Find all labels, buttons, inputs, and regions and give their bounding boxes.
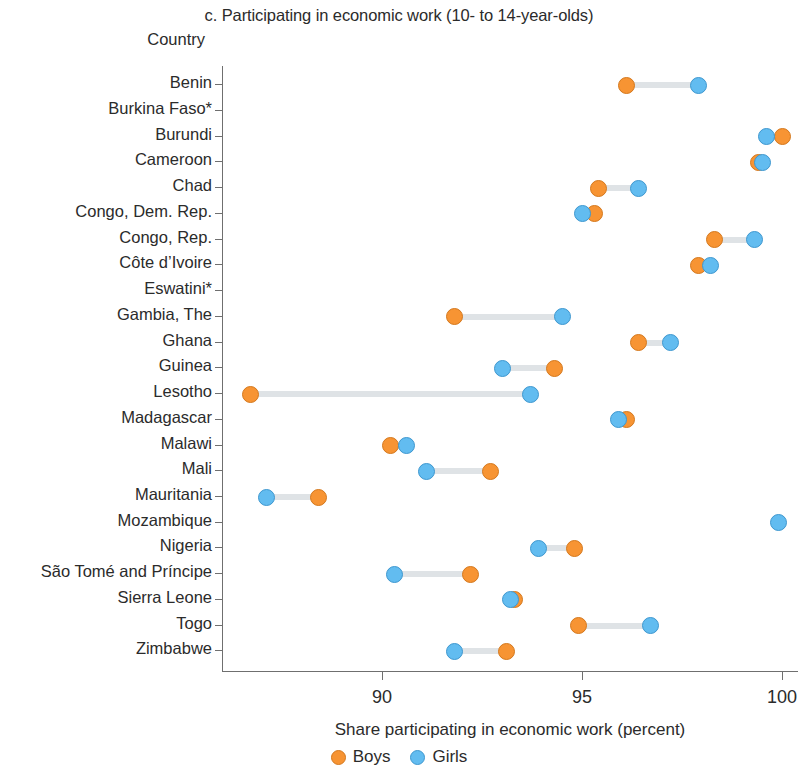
y-tick bbox=[215, 136, 222, 137]
y-tick bbox=[215, 496, 222, 497]
x-axis-line bbox=[222, 671, 798, 672]
connector-line bbox=[578, 623, 650, 629]
data-point-girls[interactable] bbox=[502, 591, 519, 608]
legend-swatch-boys-icon bbox=[331, 750, 346, 765]
connector-line bbox=[426, 468, 490, 474]
data-point-girls[interactable] bbox=[662, 334, 679, 351]
y-tick bbox=[215, 110, 222, 111]
data-point-girls[interactable] bbox=[690, 77, 707, 94]
y-tick bbox=[215, 290, 222, 291]
data-point-boys[interactable] bbox=[498, 643, 515, 660]
x-tick-100 bbox=[782, 672, 783, 680]
data-point-boys[interactable] bbox=[706, 231, 723, 248]
data-point-girls[interactable] bbox=[758, 128, 775, 145]
data-point-girls[interactable] bbox=[522, 386, 539, 403]
y-tick-label: Burkina Faso* bbox=[108, 99, 212, 118]
y-tick bbox=[215, 213, 222, 214]
y-tick bbox=[215, 419, 222, 420]
data-point-girls[interactable] bbox=[530, 540, 547, 557]
data-point-boys[interactable] bbox=[462, 566, 479, 583]
y-tick bbox=[215, 547, 222, 548]
y-tick bbox=[215, 342, 222, 343]
data-point-girls[interactable] bbox=[754, 154, 771, 171]
y-tick-label: Nigeria bbox=[160, 536, 212, 555]
data-point-boys[interactable] bbox=[566, 540, 583, 557]
category-axis-label: Country bbox=[0, 30, 205, 49]
y-tick bbox=[215, 264, 222, 265]
y-tick-label: Mali bbox=[182, 459, 212, 478]
data-point-girls[interactable] bbox=[746, 231, 763, 248]
y-tick-label: Zimbabwe bbox=[136, 639, 212, 658]
y-axis-line bbox=[222, 66, 223, 672]
data-point-girls[interactable] bbox=[398, 437, 415, 454]
y-tick-label: Congo, Rep. bbox=[119, 228, 212, 247]
y-tick-label: Madagascar bbox=[121, 408, 212, 427]
data-point-boys[interactable] bbox=[382, 437, 399, 454]
y-tick bbox=[215, 650, 222, 651]
y-tick-label: Mozambique bbox=[118, 511, 212, 530]
y-tick-label: Togo bbox=[176, 614, 212, 633]
data-point-boys[interactable] bbox=[242, 386, 259, 403]
data-point-boys[interactable] bbox=[590, 180, 607, 197]
plot-area: BeninBurkina Faso*BurundiCameroonChadCon… bbox=[222, 66, 798, 672]
x-tick-label-90: 90 bbox=[372, 687, 392, 708]
y-tick-label: Eswatini* bbox=[144, 279, 212, 298]
y-tick-label: Malawi bbox=[161, 434, 212, 453]
y-tick bbox=[215, 316, 222, 317]
y-tick bbox=[215, 187, 222, 188]
y-tick bbox=[215, 625, 222, 626]
data-point-girls[interactable] bbox=[642, 617, 659, 634]
data-point-boys[interactable] bbox=[630, 334, 647, 351]
data-point-girls[interactable] bbox=[574, 205, 591, 222]
y-tick bbox=[215, 393, 222, 394]
y-tick bbox=[215, 445, 222, 446]
data-point-girls[interactable] bbox=[258, 489, 275, 506]
x-tick-label-95: 95 bbox=[572, 687, 592, 708]
y-tick bbox=[215, 84, 222, 85]
y-tick-label: Benin bbox=[170, 73, 212, 92]
chart-title: c. Participating in economic work (10- t… bbox=[0, 6, 798, 25]
data-point-boys[interactable] bbox=[774, 128, 791, 145]
x-axis-title: Share participating in economic work (pe… bbox=[222, 720, 798, 740]
y-tick-label: Burundi bbox=[155, 125, 212, 144]
y-tick-label: Lesotho bbox=[153, 382, 212, 401]
data-point-boys[interactable] bbox=[482, 463, 499, 480]
data-point-boys[interactable] bbox=[446, 308, 463, 325]
chart-legend: Boys Girls bbox=[0, 747, 798, 767]
y-tick-label: Sierra Leone bbox=[118, 588, 212, 607]
data-point-boys[interactable] bbox=[310, 489, 327, 506]
legend-label-boys: Boys bbox=[353, 747, 391, 767]
connector-line bbox=[626, 82, 698, 88]
y-tick bbox=[215, 599, 222, 600]
legend-item-girls: Girls bbox=[410, 747, 467, 767]
legend-label-girls: Girls bbox=[432, 747, 467, 767]
data-point-boys[interactable] bbox=[546, 360, 563, 377]
y-tick-label: Cameroon bbox=[135, 150, 212, 169]
x-tick-95 bbox=[582, 672, 583, 680]
data-point-girls[interactable] bbox=[418, 463, 435, 480]
data-point-girls[interactable] bbox=[610, 411, 627, 428]
y-tick bbox=[215, 367, 222, 368]
y-tick bbox=[215, 470, 222, 471]
data-point-girls[interactable] bbox=[446, 643, 463, 660]
y-tick bbox=[215, 239, 222, 240]
data-point-boys[interactable] bbox=[570, 617, 587, 634]
y-tick-label: Mauritania bbox=[135, 485, 212, 504]
data-point-girls[interactable] bbox=[630, 180, 647, 197]
data-point-girls[interactable] bbox=[554, 308, 571, 325]
connector-line bbox=[250, 391, 530, 397]
y-tick-label: São Tomé and Príncipe bbox=[41, 562, 212, 581]
data-point-girls[interactable] bbox=[770, 514, 787, 531]
x-tick-90 bbox=[382, 672, 383, 680]
x-tick-label-100: 100 bbox=[767, 687, 797, 708]
y-tick-label: Côte d’Ivoire bbox=[119, 253, 212, 272]
legend-item-boys: Boys bbox=[331, 747, 391, 767]
data-point-boys[interactable] bbox=[618, 77, 635, 94]
data-point-girls[interactable] bbox=[386, 566, 403, 583]
data-point-girls[interactable] bbox=[702, 257, 719, 274]
data-point-girls[interactable] bbox=[494, 360, 511, 377]
y-tick bbox=[215, 161, 222, 162]
legend-swatch-girls-icon bbox=[410, 750, 425, 765]
connector-line bbox=[394, 571, 470, 577]
y-tick-label: Congo, Dem. Rep. bbox=[75, 202, 212, 221]
